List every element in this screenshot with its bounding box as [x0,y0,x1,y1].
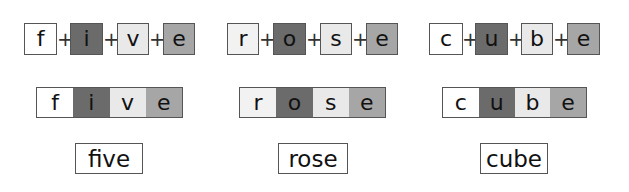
letter-tile: o [273,23,306,55]
plus-sign: + [553,29,567,49]
letter-tile: v [117,23,149,55]
plus-sign: + [149,29,163,49]
combined-letter-bar: f i v e [36,87,183,118]
plus-sign: + [462,29,476,49]
letter-tile: r [227,23,259,55]
plus-sign: + [508,29,522,49]
bar-segment: e [146,88,182,117]
letter-tile: s [320,23,352,55]
bar-segment: o [276,88,312,117]
plus-sign: + [103,29,117,49]
word-box: rose [278,143,348,174]
letter-tile: f [24,23,57,55]
letter-tile: e [366,23,398,55]
plus-sign: + [306,29,320,49]
bar-segment: c [443,88,479,117]
bar-segment: s [313,88,349,117]
letter-tile: e [567,23,600,55]
letter-tile: e [163,23,195,55]
letter-tile: c [429,23,463,55]
bar-segment: i [73,88,109,117]
combined-letter-bar: r o s e [239,87,386,118]
combined-letter-bar: c u b e [442,87,587,118]
word-box: cube [480,143,548,174]
bar-segment: e [550,88,586,117]
word-box: five [75,143,143,174]
letter-tile: b [521,23,553,55]
letter-tile: i [70,23,103,55]
bar-segment: u [479,88,515,117]
bar-segment: f [37,88,73,117]
plus-sign: + [57,29,71,49]
bar-segment: r [240,88,276,117]
bar-segment: b [515,88,551,117]
letter-tile: u [475,23,508,55]
bar-segment: v [110,88,146,117]
bar-segment: e [349,88,385,117]
plus-sign: + [259,29,273,49]
plus-sign: + [352,29,366,49]
